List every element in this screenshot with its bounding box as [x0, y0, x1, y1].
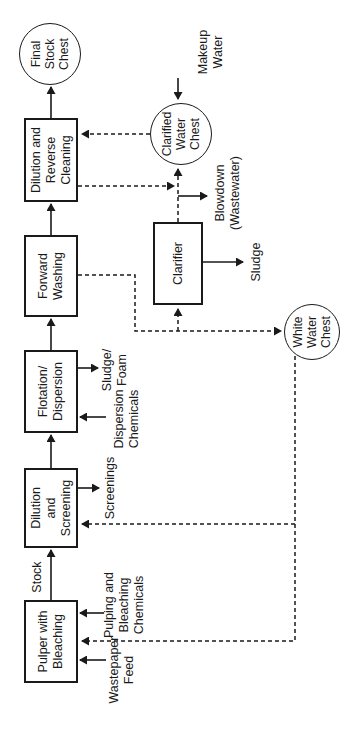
node-white-water-chest-label: White Water Chest	[291, 316, 333, 348]
diagram-canvas: Pulper with Bleaching Dilution and Scree…	[0, 0, 350, 729]
node-final-stock-chest-label: Final Stock Chest	[29, 38, 71, 70]
stream-label-blowdown: Blowdown (Wastewater)	[213, 151, 243, 235]
stream-label-stock: Stock	[30, 547, 45, 607]
stream-label-makeup-water: Makeup Water	[196, 22, 226, 82]
node-pulper-label: Pulper with Bleaching	[36, 611, 66, 673]
node-dilution-screening-label: Dilution and Screening	[29, 480, 74, 536]
stream-label-dispersion-chemicals: Dispersion Chemicals	[112, 386, 142, 452]
node-dilution-screening: Dilution and Screening	[24, 468, 78, 548]
node-forward-washing-label: Forward Washing	[36, 252, 66, 300]
node-clarifier: Clarifier	[153, 222, 203, 305]
node-forward-washing: Forward Washing	[24, 235, 78, 317]
node-dilution-reverse-cleaning-label: Dilution and Reverse Cleaning	[29, 127, 74, 193]
node-dilution-reverse-cleaning: Dilution and Reverse Cleaning	[24, 118, 78, 202]
node-clarifier-label: Clarifier	[171, 242, 186, 285]
node-white-water-chest: White Water Chest	[284, 304, 340, 360]
stream-label-wastepaper-feed: Wastepaper Feed	[107, 635, 137, 705]
stream-label-screenings: Screenings	[103, 443, 118, 533]
node-flotation-dispersion-label: Flotation/ Dispersion	[36, 362, 66, 421]
process-flow-diagram: Pulper with Bleaching Dilution and Scree…	[0, 0, 350, 729]
node-final-stock-chest: Final Stock Chest	[19, 23, 81, 85]
stream-label-pulping-chemicals: Pulping and Bleaching Chemicals	[102, 570, 147, 640]
node-clarified-water-chest-label: Clarified Water Chest	[160, 112, 202, 157]
stream-label-sludge: Sludge	[249, 232, 264, 292]
node-pulper: Pulper with Bleaching	[24, 600, 78, 683]
node-flotation-dispersion: Flotation/ Dispersion	[24, 350, 78, 433]
node-clarified-water-chest: Clarified Water Chest	[150, 103, 212, 165]
